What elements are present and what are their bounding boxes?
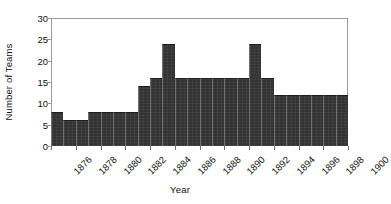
x-axis-tick-label: 1896 [319,154,342,177]
x-axis-tick-label: 1880 [121,154,144,177]
x-axis-tick-label: 1894 [294,154,317,177]
x-axis-tick-label: 1892 [269,154,292,177]
x-axis-title: Year [0,184,360,195]
x-axis-tick-label: 1886 [195,154,218,177]
x-axis-tick-label: 1898 [343,154,366,177]
x-axis-tick-label: 1876 [71,154,94,177]
x-axis-tick-label: 1878 [96,154,119,177]
x-axis-tick-label: 1884 [170,154,193,177]
x-axis-tick-label: 1882 [145,154,168,177]
x-axis-tick-label: 1890 [244,154,267,177]
x-axis-tick-label: 1888 [220,154,243,177]
x-axis-tick-label: 1900 [368,154,391,177]
